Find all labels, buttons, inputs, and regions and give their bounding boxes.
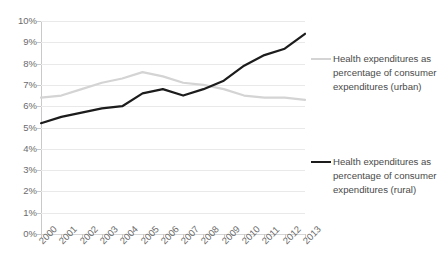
x-axis-tick-label: 2001 <box>57 224 79 246</box>
y-axis-tick <box>37 170 41 171</box>
y-axis-tick <box>37 85 41 86</box>
y-axis-tick <box>37 149 41 150</box>
x-axis-tick-label: 2008 <box>199 224 221 246</box>
x-axis-labels: 2000200120022003200420052006200720082009… <box>0 0 447 277</box>
y-axis-tick <box>37 64 41 65</box>
y-axis-tick <box>37 234 41 235</box>
y-axis-tick <box>37 21 41 22</box>
x-axis-tick-label: 2002 <box>78 224 100 246</box>
x-axis-tick-label: 2003 <box>98 224 120 246</box>
x-axis-tick-label: 2007 <box>179 224 201 246</box>
y-axis-tick <box>37 191 41 192</box>
x-axis-tick-label: 2009 <box>220 224 242 246</box>
y-axis-tick <box>37 106 41 107</box>
x-axis-tick-label: 2006 <box>159 224 181 246</box>
x-axis-tick-label: 2005 <box>139 224 161 246</box>
line-chart: 0%1%2%3%4%5%6%7%8%9%10% 2000200120022003… <box>0 0 447 277</box>
legend-label: Health expenditures as percentage of con… <box>333 52 447 95</box>
x-axis-tick-label: 2013 <box>301 224 323 246</box>
x-axis-tick-label: 2000 <box>37 224 59 246</box>
y-axis-tick <box>37 128 41 129</box>
y-axis-tick <box>37 213 41 214</box>
x-axis-tick-label: 2004 <box>118 224 140 246</box>
x-axis-tick-label: 2012 <box>281 224 303 246</box>
y-axis-tick <box>37 42 41 43</box>
x-axis-tick-label: 2011 <box>260 225 282 247</box>
legend-label: Health expenditures as percentage of con… <box>333 155 447 198</box>
x-axis-tick-label: 2010 <box>240 224 262 246</box>
